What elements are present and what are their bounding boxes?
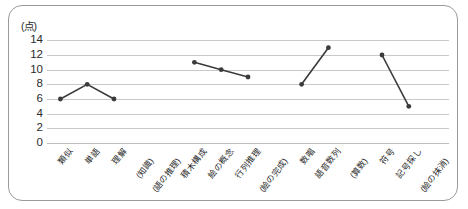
y-tick-label-0: 0 (9, 137, 43, 149)
x-tick-label-10: 語音数列 (312, 145, 343, 180)
x-tick-label-11: (算数) (346, 155, 369, 180)
series-segment (382, 55, 409, 106)
y-axis-unit-label: (点) (21, 18, 37, 33)
x-tick-label-13: 記号探し (392, 145, 423, 180)
y-tick-label-8: 8 (9, 79, 43, 91)
data-point-marker (380, 53, 385, 58)
x-axis-tick-labels: 類似単語理解(知識)(語の推理)積木構成絵の概念行列推理(絵の完成)数唱語音数列… (47, 145, 449, 205)
data-point-marker (219, 67, 224, 72)
data-point-marker (326, 45, 331, 50)
x-tick-label-8: (絵の完成) (255, 155, 289, 194)
x-tick-label-9: 数唱 (296, 145, 316, 166)
x-tick-label-0: 類似 (55, 145, 75, 166)
data-point-marker (58, 97, 63, 102)
x-tick-label-2: 理解 (108, 145, 128, 166)
x-tick-label-6: 絵の概念 (205, 145, 236, 180)
y-tick-label-14: 14 (9, 35, 43, 47)
series-segment (302, 48, 329, 85)
data-point-marker (192, 60, 197, 65)
data-point-marker (85, 82, 90, 87)
x-tick-label-5: 積木構成 (178, 145, 209, 180)
gridline-0 (47, 143, 449, 144)
data-point-marker (406, 104, 411, 109)
plot-area (47, 33, 449, 143)
data-series-line (47, 33, 449, 143)
x-tick-label-12: 符号 (376, 145, 396, 166)
y-tick-label-12: 12 (9, 49, 43, 61)
x-tick-label-3: (知識) (132, 155, 155, 180)
data-point-marker (112, 97, 117, 102)
data-point-marker (246, 75, 251, 80)
y-tick-label-2: 2 (9, 123, 43, 135)
chart-frame: (点) 02468101214 類似単語理解(知識)(語の推理)積木構成絵の概念… (8, 5, 458, 201)
data-point-marker (299, 82, 304, 87)
x-tick-label-7: 行列推理 (232, 145, 263, 180)
y-axis-tick-labels: 02468101214 (9, 33, 45, 143)
x-tick-label-1: 単語 (81, 145, 101, 166)
x-tick-label-14: (絵の抹消) (416, 155, 450, 194)
y-tick-label-4: 4 (9, 108, 43, 120)
y-tick-label-10: 10 (9, 64, 43, 76)
y-tick-label-6: 6 (9, 93, 43, 105)
